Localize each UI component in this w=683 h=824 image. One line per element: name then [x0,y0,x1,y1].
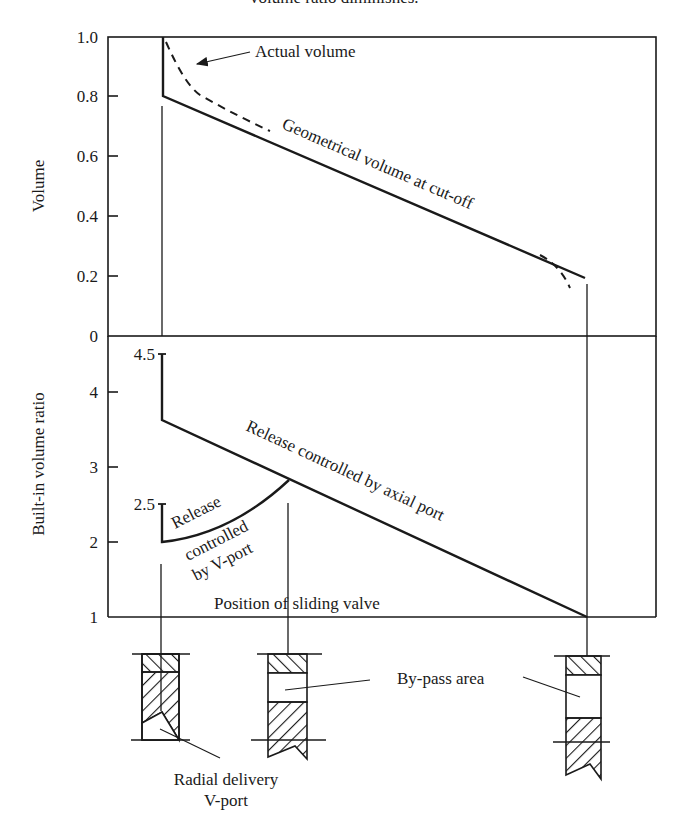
bypass-area-label: By-pass area [397,669,485,688]
tick-2-5-label: 2.5 [134,495,155,514]
actual-volume-arrow [197,52,250,64]
upper-y-axis-title: Volume [29,160,48,213]
geometric-volume-label: Geometrical volume at cut-off [279,114,476,213]
upper-tick-0-6: 0.6 [77,147,98,166]
radial-delivery-label-line2: V-port [204,791,248,810]
upper-chart: 1.0 0.8 0.6 0.4 0.2 0 Volume Actual volu… [29,28,656,346]
valve-right [523,656,610,779]
lower-chart: 4 3 2 1 Built-in volume ratio 4.5 Releas… [29,336,656,711]
lower-tick-1: 1 [90,608,99,627]
radial-delivery-label-line1: Radial delivery [174,770,279,789]
upper-plot-frame [108,37,656,336]
tick-4-5-label: 4.5 [134,345,155,364]
sliding-valve-position-label: Position of sliding valve [214,594,380,613]
valve-middle [251,654,370,759]
upper-tick-0: 0 [90,327,99,346]
upper-tick-0-4: 0.4 [77,207,99,226]
slide-valve-diagram: 1.0 0.8 0.6 0.4 0.2 0 Volume Actual volu… [0,0,683,824]
upper-ticks [108,96,118,276]
upper-tick-1-0: 1.0 [77,28,98,47]
radial-delivery-pointer [160,729,220,758]
actual-volume-label: Actual volume [255,42,356,61]
valve-left [131,654,220,758]
v-port-label-line1: Release [168,492,224,533]
upper-tick-0-2: 0.2 [77,267,98,286]
lower-tick-3: 3 [90,458,99,477]
lower-y-axis-title: Built-in volume ratio [29,392,48,536]
upper-tick-0-8: 0.8 [77,87,98,106]
lower-tick-4: 4 [90,383,99,402]
lower-tick-2: 2 [90,533,99,552]
lower-ticks [108,392,118,542]
